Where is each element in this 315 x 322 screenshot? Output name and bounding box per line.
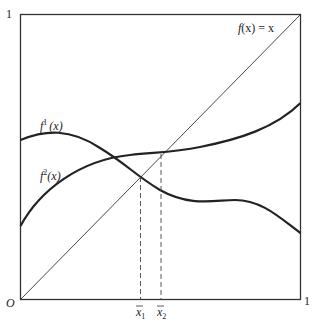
f2-label: f2(x) [40, 168, 61, 183]
identity-label: f(x) = x [238, 21, 274, 35]
x1-bar-label: x1 [135, 305, 145, 321]
f1-label: f1(x) [40, 118, 63, 133]
fixed-point-diagram: 1 O 1 f(x) = x f1(x) f2(x) x1 x2 [0, 0, 315, 322]
x2-bar-label: x2 [156, 305, 166, 321]
x-max-label: 1 [304, 294, 310, 308]
identity-line [21, 15, 301, 300]
svg-text:x2: x2 [156, 305, 166, 321]
y-max-label: 1 [6, 7, 12, 21]
origin-label: O [6, 296, 15, 310]
f1-curve [21, 133, 301, 233]
svg-text:x1: x1 [135, 305, 145, 321]
